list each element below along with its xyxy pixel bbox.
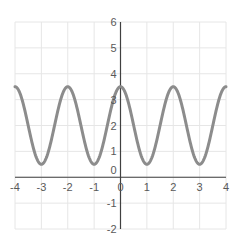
x-tick-label: 2 xyxy=(170,181,176,193)
x-tick-label: -2 xyxy=(63,181,73,193)
x-tick-label: -4 xyxy=(10,181,20,193)
y-tick-label: 5 xyxy=(110,42,116,54)
y-tick-label: 4 xyxy=(110,68,116,80)
chart-canvas: -4-3-2-101234 -2-10123456 xyxy=(0,0,237,247)
y-tick-label: 6 xyxy=(110,16,116,28)
y-tick-label: -2 xyxy=(107,223,117,235)
x-tick-label: 0 xyxy=(117,181,123,193)
x-tick-label: 4 xyxy=(223,181,229,193)
x-tick-label: -3 xyxy=(36,181,46,193)
x-tick-label: -1 xyxy=(89,181,99,193)
y-tick-label: 2 xyxy=(110,120,116,132)
x-axis-tick-labels: -4-3-2-101234 xyxy=(10,181,229,193)
y-tick-label: 1 xyxy=(110,145,116,157)
x-tick-label: 1 xyxy=(144,181,150,193)
y-tick-label: 0 xyxy=(110,164,116,176)
x-tick-label: 3 xyxy=(197,181,203,193)
y-tick-label: -1 xyxy=(107,197,117,209)
y-tick-label: 3 xyxy=(110,94,116,106)
